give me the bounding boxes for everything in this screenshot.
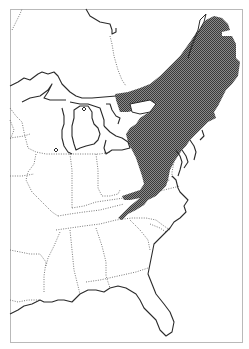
map-canvas	[0, 0, 249, 349]
range-map	[0, 0, 249, 349]
